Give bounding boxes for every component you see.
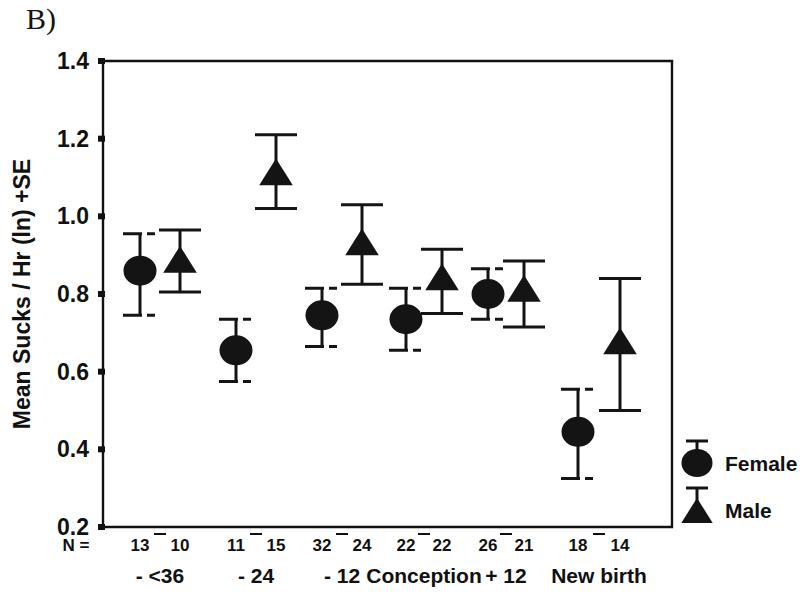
- plot-frame: [103, 61, 672, 527]
- n-value-label: 22: [433, 536, 452, 555]
- y-axis-ticks: 0.20.40.60.81.01.21.4: [57, 48, 105, 540]
- female-circle-marker: [306, 300, 339, 330]
- male-triangle-marker: [681, 498, 712, 523]
- data-point: [561, 389, 595, 478]
- y-tick-label: 0.4: [57, 436, 89, 462]
- y-tick-label: 1.0: [57, 203, 89, 229]
- x-category-label: - 12: [324, 564, 360, 587]
- male-triangle-marker: [603, 328, 637, 355]
- n-value-label: 15: [267, 536, 286, 555]
- sample-size-row: N =131011153224222226211814: [63, 534, 630, 555]
- male-triangle-marker: [425, 263, 459, 290]
- x-category-label: Conception: [366, 564, 482, 587]
- male-triangle-marker: [259, 159, 293, 186]
- y-tick-label: 1.4: [57, 48, 89, 74]
- n-value-label: 11: [227, 536, 245, 555]
- x-category-label: - <36: [136, 564, 184, 587]
- n-prefix-label: N =: [63, 536, 90, 555]
- female-circle-marker: [682, 449, 713, 477]
- n-value-label: 24: [353, 536, 372, 555]
- male-triangle-marker: [163, 246, 197, 273]
- data-point: [219, 319, 253, 381]
- chart-canvas: Mean Sucks / Hr (ln) +SE 0.20.40.60.81.0…: [0, 0, 811, 594]
- data-point: [305, 288, 339, 346]
- y-tick-label: 0.6: [57, 359, 89, 385]
- data-point: [123, 234, 157, 316]
- n-value-label: 18: [569, 536, 588, 555]
- y-tick-label: 1.2: [57, 126, 89, 152]
- n-value-label: 26: [479, 536, 498, 555]
- y-axis-title: Mean Sucks / Hr (ln) +SE: [9, 159, 35, 429]
- n-value-label: 22: [397, 536, 416, 555]
- data-point: [159, 230, 201, 292]
- n-value-label: 13: [131, 536, 150, 555]
- male-triangle-marker: [345, 229, 379, 256]
- data-series-layer: [123, 135, 641, 479]
- female-circle-marker: [124, 256, 157, 286]
- data-point: [471, 269, 505, 319]
- x-category-label: - 24: [238, 564, 275, 587]
- data-point: [503, 261, 545, 327]
- n-value-label: 32: [313, 536, 332, 555]
- y-tick-label: 0.8: [57, 281, 89, 307]
- female-circle-marker: [390, 304, 423, 334]
- x-category-label: + 12: [485, 564, 526, 587]
- data-point: [341, 205, 383, 285]
- legend-item-male[interactable]: Male: [681, 488, 771, 523]
- data-point: [389, 288, 423, 350]
- series-male: [159, 135, 641, 411]
- category-labels: - <36- 24- 12Conception+ 12New birth: [136, 564, 647, 587]
- female-circle-marker: [562, 417, 595, 447]
- n-value-label: 14: [611, 536, 630, 555]
- n-value-label: 10: [171, 536, 190, 555]
- female-circle-marker: [472, 279, 505, 309]
- legend-label: Male: [725, 499, 772, 522]
- figure-panel-b: B) Mean Sucks / Hr (ln) +SE 0.20.40.60.8…: [0, 0, 811, 594]
- female-circle-marker: [220, 335, 253, 365]
- data-point: [421, 249, 463, 313]
- legend-label: Female: [725, 452, 797, 475]
- panel-label: B): [26, 2, 56, 36]
- chart-legend: FemaleMale: [681, 441, 797, 523]
- legend-item-female[interactable]: Female: [682, 441, 798, 477]
- axis-title-group: Mean Sucks / Hr (ln) +SE: [9, 159, 35, 429]
- data-point: [255, 135, 297, 209]
- data-point: [599, 278, 641, 410]
- n-value-label: 21: [515, 536, 534, 555]
- male-triangle-marker: [507, 275, 541, 302]
- x-category-label: New birth: [551, 564, 647, 587]
